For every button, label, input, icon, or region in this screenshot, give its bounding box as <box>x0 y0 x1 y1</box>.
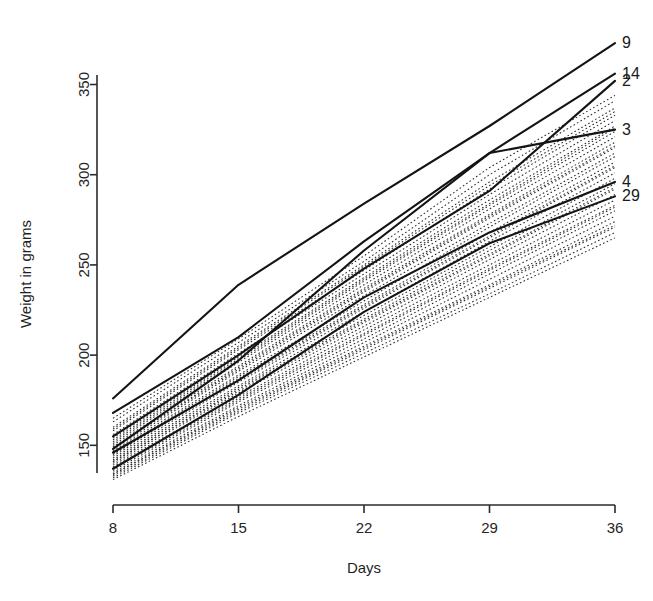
x-axis-tick-label: 36 <box>607 519 624 536</box>
series-end-label-2: 2 <box>622 72 631 89</box>
x-axis-tick-label: 15 <box>230 519 247 536</box>
y-axis-title: Weight in grams <box>17 220 34 328</box>
x-axis-tick-label: 8 <box>109 519 117 536</box>
x-axis-title: Days <box>347 559 381 576</box>
y-axis-tick-label: 150 <box>75 433 92 458</box>
y-axis-tick-label: 200 <box>75 343 92 368</box>
series-end-label-29: 29 <box>622 187 640 204</box>
x-axis-tick-label: 22 <box>356 519 373 536</box>
y-axis-tick-label: 350 <box>75 72 92 97</box>
series-end-label-3: 3 <box>622 121 631 138</box>
chart-container: 91423429 150200250300350 815222936 Weigh… <box>0 0 653 601</box>
series-end-label-9: 9 <box>622 34 631 51</box>
line-chart-svg: 91423429 150200250300350 815222936 Weigh… <box>0 0 653 601</box>
chart-background <box>0 0 653 601</box>
y-axis-tick-label: 300 <box>75 162 92 187</box>
y-axis-tick-label: 250 <box>75 252 92 277</box>
x-axis-tick-label: 29 <box>481 519 498 536</box>
